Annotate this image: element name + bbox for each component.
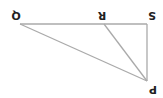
triangle-diagram: Q R S P <box>0 0 163 98</box>
label-p: P <box>149 83 157 96</box>
label-s: S <box>148 9 156 22</box>
label-q: Q <box>11 9 20 22</box>
segment-PQ <box>20 24 147 81</box>
segment-RP <box>104 24 147 81</box>
label-r: R <box>97 9 106 22</box>
